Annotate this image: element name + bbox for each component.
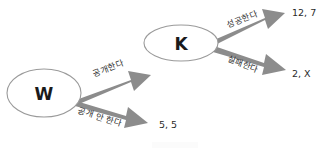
edge-label-success: 성공한다 <box>225 8 258 29</box>
footer-artifact <box>152 142 198 148</box>
diagram-canvas: W K 공개한다 공개 안 한다 성공한다 실패한다 12, 7 2, X 5,… <box>0 0 322 153</box>
node-w[interactable]: W <box>7 69 81 117</box>
edge-arrow-disclose <box>76 71 151 104</box>
payoff-failure: 2, X <box>292 68 311 79</box>
node-k[interactable]: K <box>144 25 218 61</box>
node-w-label: W <box>35 84 54 104</box>
payoff-not-disclose: 5, 5 <box>159 119 177 130</box>
edge-label-disclose: 공개한다 <box>91 58 124 79</box>
payoff-success: 12, 7 <box>292 7 316 18</box>
game-tree-diagram: W K 공개한다 공개 안 한다 성공한다 실패한다 12, 7 2, X 5,… <box>0 0 322 153</box>
node-k-label: K <box>174 34 188 54</box>
